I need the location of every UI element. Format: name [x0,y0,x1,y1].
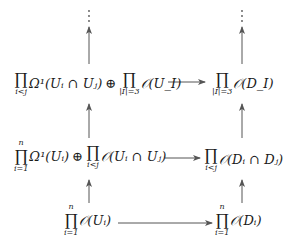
product-symbol: n∏i=1 [215,203,229,237]
product-symbol: ∏|I|=3 [212,70,232,96]
expression: 𝒪(Dᵢ ∩ Dⱼ) [219,153,283,166]
direct-sum-operator: ⊕ [72,150,83,163]
expression: 𝒪(Uᵢ) [79,214,111,227]
node-bottom-right: n∏i=1𝒪(Dᵢ) [215,203,262,237]
expression: Ω¹(Uᵢ ∩ Uⱼ) [29,77,102,90]
continuation-dots-right [241,10,243,22]
node-middle-right: ∏i<j𝒪(Dᵢ ∩ Dⱼ) [204,146,283,172]
node-bottom-left: n∏i=1𝒪(Uᵢ) [64,203,111,237]
expression: 𝒪(D_I) [233,77,273,90]
node-middle-left: n∏i=1Ω¹(Uᵢ)⊕∏i<j𝒪(Uᵢ ∩ Uⱼ) [14,139,166,173]
direct-sum-operator: ⊕ [105,77,116,90]
expression: 𝒪(Uᵢ ∩ Uⱼ) [101,150,166,163]
product-symbol: ∏|I|=3 [119,70,139,96]
product-symbol: n∏i=1 [14,139,28,173]
product-symbol: ∏i<j [14,70,28,96]
expression: Ω¹(Uᵢ) [29,150,69,163]
node-top-left: ∏i<jΩ¹(Uᵢ ∩ Uⱼ)⊕∏|I|=3𝒪(U_I) [14,70,181,96]
expression: 𝒪(Dᵢ) [230,214,261,227]
product-symbol: ∏i<j [86,143,100,169]
product-symbol: ∏i<j [204,146,218,172]
node-top-right: ∏|I|=3𝒪(D_I) [212,70,274,96]
expression: 𝒪(U_I) [141,77,182,90]
product-symbol: n∏i=1 [64,203,78,237]
continuation-dots-left [88,10,90,22]
